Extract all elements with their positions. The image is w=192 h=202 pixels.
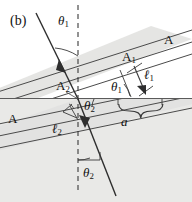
theta2-mid-label: θ2: [84, 99, 95, 114]
theta1-mid-label: θ1: [111, 80, 122, 95]
wavefront-A-right-label: A: [164, 33, 173, 46]
l2-label: ℓ2: [52, 122, 62, 137]
wavefront-A-left-label: A: [8, 112, 17, 125]
a-label: a: [121, 115, 128, 128]
l1-arrowhead: [137, 85, 146, 95]
theta1-top-arc: [55, 48, 78, 56]
theta1-top-label: θ1: [58, 14, 69, 29]
wavefront-A1-label: A1: [122, 50, 136, 65]
wavefront-A2-label: A2: [56, 79, 70, 94]
panel-label: (b): [10, 14, 26, 28]
theta2-bottom-label: θ2: [83, 166, 94, 181]
figure-canvas: [0, 0, 192, 202]
l1-label: ℓ1: [144, 68, 154, 83]
theta1-mid-arc: [124, 84, 130, 96]
refraction-wavefront-figure: (b) θ1 A A1 ℓ1 θ1 A2 θ2 a A ℓ2 θ2: [0, 0, 192, 202]
